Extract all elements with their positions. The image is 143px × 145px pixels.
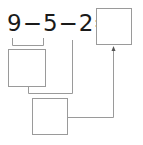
connector-step2-to-result (68, 50, 114, 118)
arrow-up-icon (112, 46, 116, 51)
connector-lines (0, 0, 143, 145)
connector-step1-and-2 (29, 40, 73, 94)
bracket-9-5 (13, 38, 44, 46)
